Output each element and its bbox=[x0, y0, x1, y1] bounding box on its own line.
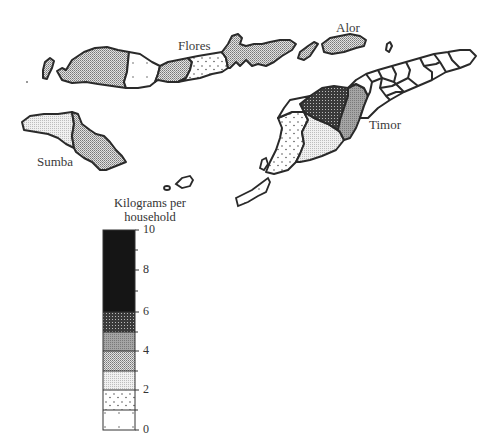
legend-bar bbox=[103, 230, 139, 430]
label-timor: Timor bbox=[369, 117, 401, 133]
timor-island bbox=[266, 50, 476, 174]
label-sumba: Sumba bbox=[37, 154, 73, 170]
legend-tick-0: 0 bbox=[143, 422, 149, 437]
legend-tick-10: 10 bbox=[143, 222, 155, 237]
savu-islets bbox=[164, 176, 193, 190]
choropleth-map bbox=[0, 0, 492, 446]
legend-tick-4: 4 bbox=[143, 343, 149, 358]
legend-tick-6: 6 bbox=[143, 304, 149, 319]
legend-title-line1: Kilograms per bbox=[85, 196, 215, 210]
legend-tick-8: 8 bbox=[143, 262, 149, 277]
roti-islands bbox=[236, 158, 270, 206]
legend-bin-4-5 bbox=[103, 332, 135, 351]
legend-tick-2: 2 bbox=[143, 382, 149, 397]
legend-bin-1-2 bbox=[103, 390, 135, 410]
legend-bin-5-6 bbox=[103, 312, 135, 332]
alor-islands bbox=[298, 34, 392, 60]
flores-island bbox=[43, 34, 296, 88]
legend-bin-6-10 bbox=[103, 230, 135, 312]
legend-bin-0-1 bbox=[103, 410, 135, 430]
label-alor: Alor bbox=[336, 20, 360, 36]
label-flores: Flores bbox=[178, 38, 211, 54]
legend-bin-2-3 bbox=[103, 371, 135, 390]
legend-bin-3-4 bbox=[103, 351, 135, 371]
legend-title: Kilograms per household bbox=[85, 196, 215, 224]
islet-speck bbox=[26, 81, 28, 83]
